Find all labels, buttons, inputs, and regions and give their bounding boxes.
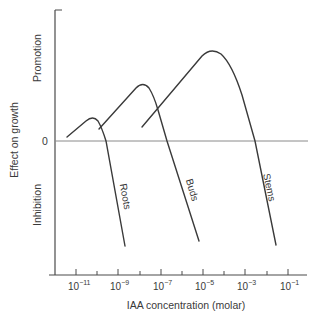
- x-ticks: [76, 269, 288, 275]
- y-label-zero: 0: [42, 135, 48, 147]
- label-stems: Stems: [261, 172, 278, 202]
- svg-text:10−5: 10−5: [195, 279, 214, 292]
- curve-roots: [67, 118, 125, 246]
- y-axis-title: Effect on growth: [8, 102, 20, 178]
- label-roots: Roots: [118, 183, 133, 211]
- svg-text:10−11: 10−11: [68, 279, 91, 292]
- svg-text:10−3: 10−3: [237, 279, 256, 292]
- axes: [49, 10, 308, 275]
- x-tick-labels: 10−11 10−9 10−7 10−5 10−3 10−1: [68, 279, 299, 292]
- curve-stems: [142, 51, 276, 245]
- svg-text:10−1: 10−1: [280, 279, 299, 292]
- y-label-promotion: Promotion: [31, 34, 43, 82]
- auxin-dose-response-chart: 10−11 10−9 10−7 10−5 10−3 10−1 IAA conce…: [0, 0, 320, 318]
- svg-text:10−9: 10−9: [110, 279, 129, 292]
- label-buds: Buds: [184, 177, 201, 202]
- y-label-inhibition: Inhibition: [31, 184, 43, 226]
- svg-text:10−7: 10−7: [153, 279, 172, 292]
- curve-buds: [99, 85, 199, 242]
- x-axis-title: IAA concentration (molar): [127, 299, 245, 311]
